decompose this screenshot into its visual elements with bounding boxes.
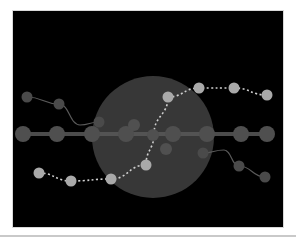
main-node — [165, 126, 181, 142]
branch-node — [54, 99, 65, 110]
dashed-path-node — [262, 90, 273, 101]
branch-node — [198, 148, 209, 159]
main-node — [233, 126, 249, 142]
inner-node — [160, 143, 172, 155]
branch-node — [22, 92, 33, 103]
main-node — [259, 126, 275, 142]
branch-line-lower-right — [203, 150, 265, 177]
main-node — [15, 126, 31, 142]
inner-node — [128, 119, 140, 131]
branch-node — [260, 172, 271, 183]
main-node — [84, 126, 100, 142]
dashed-path-node — [163, 92, 174, 103]
dashed-path-node — [229, 83, 240, 94]
dashed-path-node — [194, 83, 205, 94]
bottom-divider — [0, 235, 296, 237]
dashed-path-node — [141, 160, 152, 171]
branch-node — [234, 161, 245, 172]
dashed-path-node — [34, 168, 45, 179]
main-node — [199, 126, 215, 142]
dashed-path-node — [66, 176, 77, 187]
network-diagram — [0, 0, 296, 244]
dashed-path-node — [106, 174, 117, 185]
main-node — [49, 126, 65, 142]
inner-node — [147, 129, 159, 141]
branch-node — [94, 117, 105, 128]
